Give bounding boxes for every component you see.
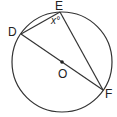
label-o: O [58,67,67,81]
label-f: F [105,87,112,101]
circle-diagram: E D F O x° [0,0,117,117]
angle-x-label: x° [50,15,60,26]
label-e: E [55,0,63,13]
center-point [60,60,64,64]
label-d: D [8,25,17,39]
diagram: E D F O x° [0,0,117,117]
